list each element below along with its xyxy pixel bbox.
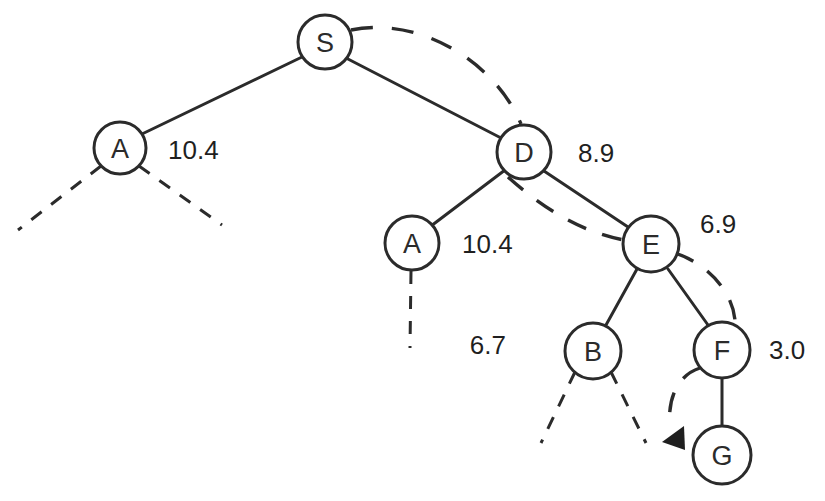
cost-label-e: 6.9: [700, 209, 736, 239]
node-s[interactable]: S: [298, 15, 352, 69]
node-e-label: E: [642, 230, 660, 260]
node-a-middle-label: A: [403, 229, 421, 259]
node-g-label: G: [711, 441, 732, 471]
node-b-label: B: [584, 337, 602, 367]
search-tree-diagram: S A D A E B: [0, 0, 825, 501]
edge-s-d: [346, 58, 503, 139]
frontier-edge-b-right: [611, 372, 646, 443]
frontier-edge-a2-down: [410, 271, 411, 348]
dashed-frontier-edges-group: [18, 166, 646, 443]
cost-label-a-left: 10.4: [168, 135, 219, 165]
edge-d-a2: [431, 170, 505, 226]
path-curve-f-to-g: [670, 368, 700, 428]
edge-e-b: [606, 269, 637, 325]
cost-label-a-middle: 10.4: [462, 229, 513, 259]
edge-d-e: [544, 171, 631, 229]
node-f-label: F: [714, 336, 731, 366]
node-g[interactable]: G: [693, 426, 751, 484]
node-d[interactable]: D: [497, 125, 551, 179]
node-a-left[interactable]: A: [94, 122, 146, 174]
cost-label-f: 3.0: [769, 335, 805, 365]
node-d-label: D: [514, 138, 534, 168]
node-b[interactable]: B: [565, 323, 621, 379]
path-curve-s-to-d: [351, 27, 521, 124]
edge-s-a1: [142, 57, 302, 134]
tree-canvas: S A D A E B: [0, 0, 825, 501]
nodes-group: S A D A E B: [94, 15, 751, 484]
cost-label-d: 8.9: [578, 138, 614, 168]
node-a-middle[interactable]: A: [385, 216, 439, 270]
frontier-edge-a1-right: [139, 166, 222, 225]
path-arrowhead-icon: [662, 426, 685, 450]
edge-e-f: [668, 269, 708, 325]
frontier-edge-a1-left: [18, 166, 101, 230]
frontier-edge-b-left: [541, 372, 575, 443]
node-f[interactable]: F: [694, 322, 750, 378]
node-e[interactable]: E: [623, 216, 679, 272]
node-a-left-label: A: [111, 134, 129, 164]
cost-label-b: 6.7: [470, 330, 506, 360]
node-s-label: S: [316, 28, 334, 58]
